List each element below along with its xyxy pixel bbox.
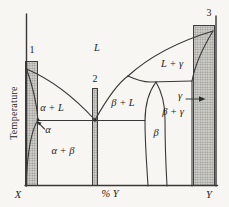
region-label-liquid-gamma: L + γ: [161, 59, 183, 70]
bar-marker-2: 2: [93, 74, 98, 84]
solidus-left-curve: [27, 69, 39, 120]
bar-marker-1: 1: [30, 45, 35, 55]
bar-marker-3: 3: [207, 8, 212, 18]
alpha-apex-point: [37, 119, 40, 122]
region-label-alpha-beta: α + β: [51, 146, 74, 157]
gamma-solidus-curve: [192, 31, 213, 81]
eutectic-point: [93, 118, 97, 122]
region-label-beta: β: [153, 128, 158, 139]
region-label-liquid: L: [94, 43, 100, 54]
solvus-left-curve: [26, 120, 38, 186]
region-label-gamma: γ: [178, 91, 182, 102]
region-label-alpha-liquid: α + L: [40, 103, 64, 114]
y-axis-label-temperature: Temperature: [9, 86, 19, 140]
region-label-beta-liquid: β + L: [111, 98, 134, 109]
peritectic-line: [128, 76, 192, 82]
phase-diagram-figure: L L + γ α + L β + L γ β + γ β α α + β 1 …: [0, 0, 229, 207]
x-axis-label-center: % Y: [101, 189, 118, 200]
region-label-alpha: α: [45, 125, 51, 136]
x-axis-label-right: Y: [206, 190, 212, 201]
gamma-arrow-head: [199, 96, 206, 101]
region-label-beta-gamma: β + γ: [162, 107, 184, 118]
x-axis-label-left: X: [15, 190, 21, 201]
liquidus-right-upper-curve: [128, 31, 213, 76]
alpha-arrow-shaft: [40, 124, 45, 129]
